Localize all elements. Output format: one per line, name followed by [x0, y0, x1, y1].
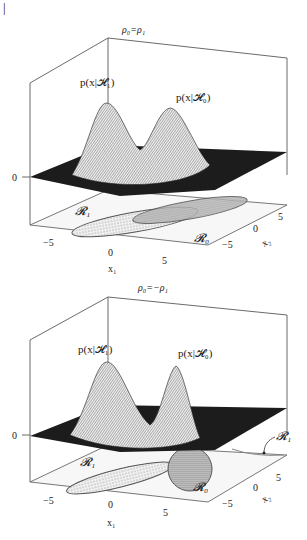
x1-tick: 0 [108, 499, 113, 510]
x2-tick: 0 [253, 223, 258, 234]
surface-peaks [70, 362, 200, 448]
x1-label: x₁ [108, 263, 117, 274]
panel-top: ρ₀=ρ₁ p(x|𝓗₁) p(x|𝓗₀) 0 𝓡₁ 𝓡₀ −5 0 5 x₁ … [12, 24, 287, 274]
x1-tick: 0 [108, 247, 113, 258]
surface-peaks [72, 103, 210, 185]
x2-tick: 0 [253, 482, 258, 493]
label-h1: p(x|𝓗₁) [78, 343, 113, 356]
region-r1: 𝓡₁ [80, 455, 95, 469]
x2-label: x₂ [260, 491, 273, 505]
x1-label: x₁ [107, 517, 116, 528]
x2-tick: −5 [222, 498, 233, 509]
label-h0: p(x|𝓗₀) [176, 91, 211, 104]
z-tick: 0 [12, 172, 17, 183]
panel-title: ρ₀=−ρ₁ [137, 282, 168, 293]
figure: | ρ₀=ρ₁ p(x|𝓗₁) p(x|𝓗₀) 0 𝓡₁ 𝓡₀ −5 0 5 x… [0, 0, 307, 540]
x1-tick: 5 [163, 507, 168, 518]
x2-label: x₂ [260, 235, 273, 249]
x2-tick: 5 [278, 211, 283, 222]
panel-bottom: ρ₀=−ρ₁ p(x|𝓗₁) p(x|𝓗₀) 0 𝓡₁ 𝓡₀ 𝓡₁ −5 0 5… [12, 282, 291, 528]
region-r0: 𝓡₀ [193, 480, 208, 494]
region-r1-callout: 𝓡₁ [276, 429, 291, 443]
z-tick: 0 [12, 430, 17, 441]
page-marker: | [3, 0, 6, 15]
label-h1: p(x|𝓗₁) [80, 76, 115, 89]
x1-tick: −5 [43, 237, 54, 248]
region-r1: 𝓡₁ [75, 204, 90, 218]
label-h0: p(x|𝓗₀) [178, 347, 213, 360]
region-r0: 𝓡₀ [194, 231, 209, 245]
x1-tick: −5 [43, 495, 54, 506]
x2-tick: −5 [222, 239, 233, 250]
x1-tick: 5 [162, 255, 167, 266]
x2-tick: 5 [276, 472, 281, 483]
panel-title: ρ₀=ρ₁ [121, 24, 145, 35]
